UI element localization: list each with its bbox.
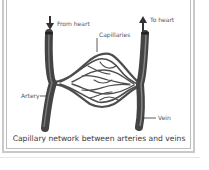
artery-label: Artery bbox=[21, 93, 40, 99]
up-arrow-icon bbox=[139, 16, 147, 31]
vein-vessel bbox=[139, 31, 149, 127]
from-heart-label: From heart bbox=[57, 21, 90, 27]
capillary-diagram bbox=[0, 0, 209, 170]
to-heart-label: To heart bbox=[150, 17, 174, 23]
capillaries-label: Capillaries bbox=[99, 32, 130, 38]
capillary-network bbox=[54, 54, 140, 107]
down-arrow-icon bbox=[46, 16, 54, 30]
artery-vessel bbox=[44, 31, 53, 128]
vein-label: Vein bbox=[158, 115, 171, 121]
diagram-caption: Capillary network between arteries and v… bbox=[10, 135, 188, 143]
